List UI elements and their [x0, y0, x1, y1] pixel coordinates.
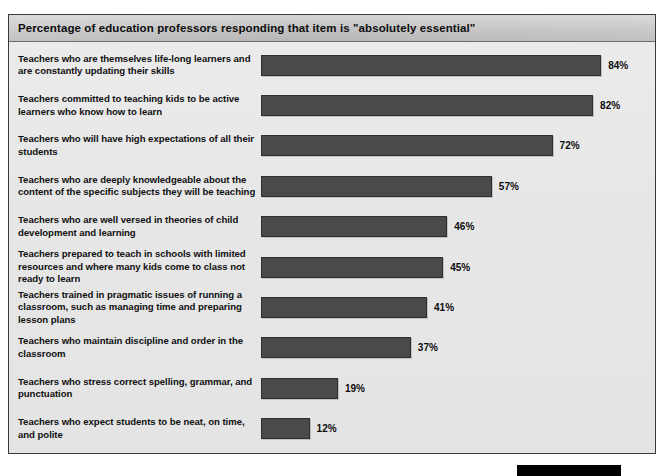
bar-row: Teachers who maintain discipline and ord…: [9, 328, 655, 368]
bottom-marker-block: [517, 465, 621, 476]
bar-category-label: Teachers who are themselves life-long le…: [9, 53, 261, 78]
bar-category-label: Teachers who are well versed in theories…: [9, 214, 261, 239]
bar-row: Teachers who are well versed in theories…: [9, 207, 655, 247]
bar-category-label: Teachers who expect students to be neat,…: [9, 416, 261, 441]
bar: [261, 216, 447, 237]
bar-value-label: 41%: [434, 302, 454, 313]
bar-track: 84%: [261, 45, 655, 85]
bar: [261, 95, 593, 116]
bar-category-label: Teachers trained in pragmatic issues of …: [9, 289, 261, 327]
bar: [261, 337, 411, 358]
bar-row: Teachers trained in pragmatic issues of …: [9, 287, 655, 327]
chart-title: Percentage of education professors respo…: [18, 22, 475, 34]
bar: [261, 378, 338, 399]
bar-value-label: 19%: [345, 383, 365, 394]
bar-track: 57%: [261, 166, 655, 206]
bar-track: 12%: [261, 409, 655, 449]
bar-category-label: Teachers committed to teaching kids to b…: [9, 93, 261, 118]
bar-value-label: 72%: [560, 140, 580, 151]
bar-value-label: 84%: [608, 60, 628, 71]
bar-row: Teachers who will have high expectations…: [9, 126, 655, 166]
bar: [261, 297, 427, 318]
bar-category-label: Teachers who are deeply knowledgeable ab…: [9, 174, 261, 199]
bar-row: Teachers who are deeply knowledgeable ab…: [9, 166, 655, 206]
bar: [261, 135, 553, 156]
bar-track: 37%: [261, 328, 655, 368]
chart-panel: Percentage of education professors respo…: [8, 14, 656, 454]
bar: [261, 55, 601, 76]
bar-value-label: 46%: [454, 221, 474, 232]
bar-category-label: Teachers prepared to teach in schools wi…: [9, 248, 261, 286]
bar-track: 41%: [261, 287, 655, 327]
bar-value-label: 82%: [600, 100, 620, 111]
bar-value-label: 37%: [418, 342, 438, 353]
bar-track: 19%: [261, 368, 655, 408]
bar-row: Teachers who stress correct spelling, gr…: [9, 368, 655, 408]
chart-plot-area: Teachers who are themselves life-long le…: [9, 42, 655, 453]
bar-category-label: Teachers who will have high expectations…: [9, 133, 261, 158]
bar-category-label: Teachers who stress correct spelling, gr…: [9, 376, 261, 401]
bar-row: Teachers prepared to teach in schools wi…: [9, 247, 655, 287]
bar: [261, 418, 310, 439]
bar-track: 45%: [261, 247, 655, 287]
bar-category-label: Teachers who maintain discipline and ord…: [9, 335, 261, 360]
bar-track: 82%: [261, 85, 655, 125]
bar-track: 72%: [261, 126, 655, 166]
bar-value-label: 45%: [450, 262, 470, 273]
bar-row: Teachers committed to teaching kids to b…: [9, 85, 655, 125]
bar-value-label: 57%: [499, 181, 519, 192]
bar-track: 46%: [261, 207, 655, 247]
bar-row: Teachers who expect students to be neat,…: [9, 409, 655, 449]
bar-value-label: 12%: [317, 423, 337, 434]
bar: [261, 176, 492, 197]
chart-title-band: Percentage of education professors respo…: [9, 15, 655, 42]
bar: [261, 257, 443, 278]
bar-row: Teachers who are themselves life-long le…: [9, 45, 655, 85]
